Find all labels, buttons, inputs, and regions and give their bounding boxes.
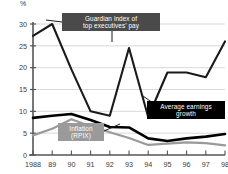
x-tick-label: 96 xyxy=(183,160,191,169)
x-tick-label: 90 xyxy=(67,160,75,169)
y-tick-label: 20 xyxy=(19,63,27,72)
x-tick-label: 91 xyxy=(87,160,95,169)
x-tick-label: 93 xyxy=(125,160,133,169)
chart-container: % 051015202530 198889909192939495969798 … xyxy=(0,0,228,174)
y-tick-label: 15 xyxy=(19,85,27,94)
y-tick-label: 10 xyxy=(19,107,27,116)
annotation-guardian-line1: Guardian index of xyxy=(85,15,137,22)
x-tick-labels-group: 198889909192939495969798 xyxy=(25,160,228,169)
y-tick-label: 25 xyxy=(19,42,27,51)
x-tick-label: 1988 xyxy=(25,160,41,169)
y-tick-label: 5 xyxy=(23,129,27,138)
annotation-inflation-line1: Inflation xyxy=(69,125,92,132)
annotation-inflation-rpix: Inflation (RPIX) xyxy=(58,123,104,141)
x-tick-label: 94 xyxy=(144,160,152,169)
annotation-average-earnings: Average earnings growth xyxy=(147,101,225,119)
annotation-guardian-index: Guardian index of top executives' pay xyxy=(62,13,160,31)
x-tick-label: 95 xyxy=(163,160,171,169)
x-tick-label: 97 xyxy=(202,160,210,169)
x-tick-label: 98 xyxy=(221,160,228,169)
x-tick-label: 89 xyxy=(48,160,56,169)
y-tick-label: 0 xyxy=(23,151,27,160)
annotation-guardian-line2: top executives' pay xyxy=(83,22,139,29)
y-tick-labels-group: 051015202530 xyxy=(19,20,27,160)
x-tick-label: 92 xyxy=(106,160,114,169)
y-tick-label: 30 xyxy=(19,20,27,29)
annotation-earnings-line2: growth xyxy=(176,110,196,117)
annotation-earnings-line1: Average earnings xyxy=(160,103,212,110)
annotation-inflation-line2: (RPIX) xyxy=(71,132,91,139)
